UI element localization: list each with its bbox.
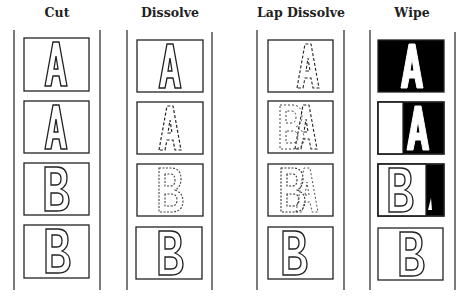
wipe-column — [376, 40, 444, 280]
film-transitions-diagram — [0, 0, 466, 305]
frame — [268, 164, 333, 216]
lap-dissolve-column — [268, 40, 333, 279]
cut-column — [24, 38, 89, 278]
dissolve-column — [136, 40, 203, 279]
